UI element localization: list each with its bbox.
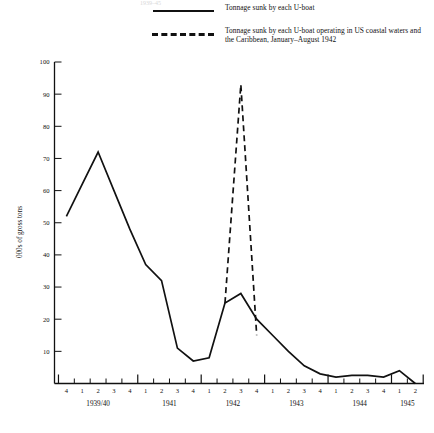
y-axis-tick-label: 40 xyxy=(43,251,50,258)
x-axis-quarter-label: 2 xyxy=(350,387,353,394)
x-axis-quarter-label: 3 xyxy=(303,387,307,394)
x-axis-quarter-label: 3 xyxy=(112,387,116,394)
x-axis-quarter-label: 4 xyxy=(65,387,69,394)
x-axis-quarter-label: 1 xyxy=(144,387,147,394)
y-axis-tick-label: 80 xyxy=(43,123,50,130)
x-axis-year-label: 1942 xyxy=(226,400,241,408)
x-axis-year-label: 1939/40 xyxy=(86,400,110,408)
x-axis-quarter-label: 4 xyxy=(382,387,386,394)
y-axis-tick-label: 20 xyxy=(43,316,50,323)
y-axis-tick-label: 90 xyxy=(43,91,50,98)
y-axis-tick-label: 50 xyxy=(43,219,50,226)
x-axis-quarter-label: 3 xyxy=(239,387,243,394)
x-axis-quarter-label: 3 xyxy=(176,387,180,394)
x-axis-year-label: 1945 xyxy=(400,400,415,408)
x-axis-quarter-label: 1 xyxy=(207,387,210,394)
x-axis-quarter-label: 2 xyxy=(414,387,417,394)
y-axis-tick-label: 70 xyxy=(43,155,50,162)
x-axis-quarter-label: 4 xyxy=(192,387,196,394)
x-axis-quarter-label: 4 xyxy=(128,387,132,394)
chart-svg: 102030405060708090100 412341234123412341… xyxy=(0,0,434,433)
chart-figure: 1939–45 Tonnage sunk by each U-boat Tonn… xyxy=(0,0,434,433)
y-axis-tick-label: 30 xyxy=(43,283,50,290)
x-axis-tick-labels: 41234123412341234123412 xyxy=(65,387,417,394)
series-line-solid xyxy=(66,152,415,383)
plot-area: 102030405060708090100 412341234123412341… xyxy=(0,0,434,433)
y-axis-title: 000s of gross tons xyxy=(16,206,24,258)
x-axis-quarter-label: 3 xyxy=(366,387,370,394)
x-axis-quarter-label: 4 xyxy=(318,387,322,394)
x-axis-year-labels: 1939/4019411942194319441945 xyxy=(86,400,415,408)
y-axis-tick-label: 10 xyxy=(43,348,50,355)
x-axis-quarter-label: 4 xyxy=(255,387,259,394)
x-axis-quarter-label: 2 xyxy=(287,387,290,394)
x-axis-year-label: 1941 xyxy=(162,400,177,408)
x-axis-quarter-label: 1 xyxy=(81,387,84,394)
x-axis-quarter-label: 1 xyxy=(334,387,337,394)
x-axis-quarter-label: 2 xyxy=(160,387,163,394)
series-line-dashed xyxy=(225,85,257,336)
x-axis-year-label: 1944 xyxy=(353,400,368,408)
x-axis-year-label: 1943 xyxy=(289,400,304,408)
x-axis-quarter-label: 1 xyxy=(398,387,401,394)
x-axis-quarter-label: 1 xyxy=(271,387,274,394)
y-axis-tick-label: 100 xyxy=(40,58,51,65)
x-axis-quarter-label: 2 xyxy=(96,387,99,394)
x-axis-quarter-label: 2 xyxy=(223,387,226,394)
y-axis-tick-label: 60 xyxy=(43,187,50,194)
y-axis-ticks: 102030405060708090100 xyxy=(40,58,62,354)
